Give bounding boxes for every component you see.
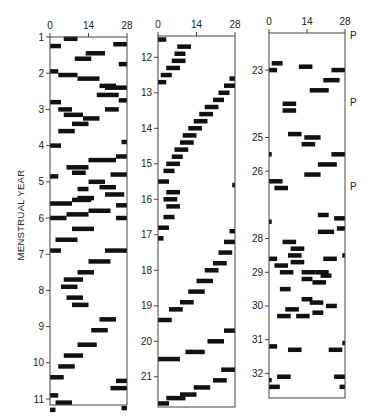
panel-2-bleeding-mark <box>166 190 180 195</box>
panel-3-bleeding-mark <box>280 287 291 292</box>
panel-2-bleeding-mark <box>224 328 235 333</box>
panel-2-bleeding-mark <box>188 289 205 294</box>
panel-2-bleeding-mark <box>180 140 194 145</box>
panel-1-bleeding-mark <box>116 379 127 384</box>
panel-3-bleeding-mark <box>269 385 280 390</box>
panel-2-bleeding-mark <box>183 133 197 138</box>
panel-2-bleeding-mark <box>230 229 236 234</box>
y-axis-label: MENSTRUAL YEAR <box>15 170 26 261</box>
panel-3-bleeding-mark <box>288 253 302 257</box>
panel-2-bleeding-mark <box>166 162 180 167</box>
panel-3-bleeding-mark <box>283 102 297 107</box>
panel-2-bleeding-mark <box>199 112 213 117</box>
panel-1-y-tick-label: 1 <box>38 32 44 43</box>
panel-2-bleeding-mark <box>172 154 183 159</box>
panel-1-bleeding-mark <box>50 375 64 380</box>
panel-3-bleeding-mark <box>340 385 345 390</box>
panel-2-bleeding-mark <box>175 147 189 152</box>
panel-3-bleeding-mark <box>337 226 345 231</box>
panel-2-bleeding-mark <box>208 339 225 344</box>
panel-1-bleeding-mark <box>67 165 89 170</box>
panel-1-bleeding-mark <box>50 143 61 148</box>
panel-3-y-tick-label: 25 <box>252 132 264 143</box>
panel-1-bleeding-mark <box>75 56 92 61</box>
panel-3-bleeding-mark <box>331 68 345 73</box>
panel-3-bleeding-mark <box>288 348 302 353</box>
panel-2-bleeding-mark <box>164 197 178 202</box>
panel-2-x-tick-label: 14 <box>191 19 203 30</box>
panel-1-bleeding-mark <box>58 73 77 78</box>
panel-3-bleeding-mark <box>334 216 345 221</box>
panel-1-x-tick-label: 0 <box>47 20 53 31</box>
panel-2-bleeding-mark <box>213 98 224 103</box>
panel-3-bleeding-mark <box>323 257 337 262</box>
panel-2-y-tick-label: 17 <box>141 229 153 240</box>
panel-3-bleeding-mark <box>269 344 277 349</box>
panel-1-bleeding-mark <box>64 353 83 358</box>
panel-3-bleeding-mark <box>272 61 283 66</box>
panel-3-bleeding-mark <box>269 68 277 73</box>
panel-1-x-tick-label: 14 <box>83 20 95 31</box>
panel-1-bleeding-mark <box>61 285 78 290</box>
panel-2-y-tick-label: 19 <box>141 300 153 311</box>
panel-3-bleeding-mark <box>285 307 299 312</box>
panel-3-bleeding-mark <box>318 162 337 167</box>
panel-3-bleeding-mark <box>277 314 291 319</box>
panel-2-y-tick-label: 13 <box>141 87 153 98</box>
panel-3-p-annotation: P <box>350 30 357 41</box>
panel-3-bleeding-mark <box>321 273 332 278</box>
panel-2-y-tick-label: 14 <box>141 123 153 134</box>
panel-1-bleeding-mark <box>56 237 78 242</box>
panel-1-y-tick-label: 3 <box>38 104 44 115</box>
panel-3-p-annotation: P <box>350 97 357 108</box>
panel-2-bleeding-mark <box>205 105 219 110</box>
panel-1-bleeding-mark <box>100 185 117 190</box>
panel-1-bleeding-mark <box>72 171 86 176</box>
panel-1-bleeding-mark <box>64 113 83 118</box>
panel-3-bleeding-mark <box>283 240 297 245</box>
panel-1-bleeding-mark <box>78 270 95 275</box>
panel-1-bleeding-mark <box>50 248 61 253</box>
panel-1-bleeding-mark <box>72 227 94 232</box>
panel-2-y-tick-label: 15 <box>141 158 153 169</box>
panel-1-bleeding-mark <box>58 364 75 369</box>
panel-2-bleeding-mark <box>161 73 172 78</box>
panel-1-bleeding-mark <box>72 303 89 308</box>
panel-3-bleeding-mark <box>288 132 302 137</box>
panel-1-y-tick-label: 7 <box>38 249 44 260</box>
chart: 0142812345678910110142812131415161718192… <box>0 0 370 417</box>
panel-1-bleeding-mark <box>83 116 100 121</box>
panel-1-bleeding-mark <box>78 187 89 192</box>
panel-1-y-tick-label: 2 <box>38 68 44 79</box>
panel-3-frame <box>269 33 345 398</box>
panel-2-x-tick-label: 28 <box>229 19 241 30</box>
panel-1-bleeding-mark <box>105 85 127 90</box>
panel-1-bleeding-mark <box>122 140 128 145</box>
panel-2-bleeding-mark <box>164 169 175 174</box>
panel-3-y-tick-label: 23 <box>252 65 264 76</box>
panel-2-bleeding-mark <box>230 76 236 81</box>
panel-2-bleeding-mark <box>213 261 227 266</box>
panel-3-bleeding-mark <box>318 230 334 235</box>
panel-1-bleeding-mark <box>72 122 89 127</box>
panel-3-bleeding-mark <box>312 310 323 315</box>
panel-2-bleeding-mark <box>180 300 194 305</box>
panel-1-bleeding-mark <box>113 42 127 47</box>
panel-2-bleeding-mark <box>158 80 166 85</box>
panel-2-bleeding-mark <box>194 119 208 124</box>
panel-1-bleeding-mark <box>50 408 56 413</box>
panel-3-bleeding-mark <box>274 186 288 191</box>
panel-3-bleeding-mark <box>277 374 291 379</box>
panel-1-x-tick-label: 28 <box>121 20 133 31</box>
panel-1-bleeding-mark <box>50 100 61 105</box>
panel-2-bleeding-mark <box>175 52 186 57</box>
panel-3-bleeding-mark <box>331 152 345 157</box>
panel-2-bleeding-mark <box>164 215 175 220</box>
panel-1-bleeding-mark <box>89 209 111 214</box>
panel-1-bleeding-mark <box>67 295 84 300</box>
panel-2-bleeding-mark <box>219 91 230 96</box>
panel-1-bleeding-mark <box>111 386 128 391</box>
panel-2-bleeding-mark <box>224 240 235 245</box>
panel-2-y-tick-label: 16 <box>141 194 153 205</box>
panel-1-bleeding-mark <box>64 277 83 282</box>
